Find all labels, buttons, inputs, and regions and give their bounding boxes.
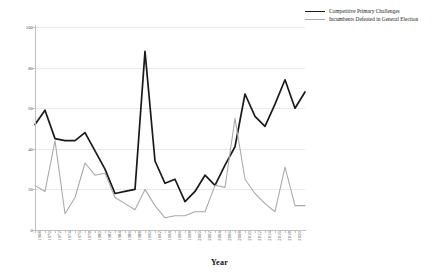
x-tick-label: 2002 [207,231,212,241]
x-tick-mark [45,231,46,233]
x-tick-mark [215,231,216,233]
x-tick-label: 1994 [167,231,172,241]
x-tick-mark [125,231,126,233]
x-tick-mark [155,231,156,233]
x-tick-mark [145,231,146,233]
y-tick-mark [32,108,35,109]
legend-item-primary: Competitive Primary Challenges [305,8,439,15]
series-lines [35,27,305,230]
x-tick-label: 2014 [267,231,272,241]
x-tick-label: 2016 [277,231,282,241]
legend-item-general: Incumbents Defeated in General Election [305,16,439,23]
y-tick-mark [32,27,35,28]
y-tick-mark [32,68,35,69]
x-axis-labels: 1968197019721974197619781980198219841986… [35,231,306,257]
x-tick-label: 2012 [257,231,262,241]
x-tick-label: 2004 [217,231,222,241]
x-tick-label: 1984 [117,231,122,241]
x-tick-label: 2006 [227,231,232,241]
x-tick-label: 2010 [247,231,252,241]
x-tick-mark [205,231,206,233]
x-tick-mark [115,231,116,233]
x-tick-label: 1976 [77,231,82,241]
x-tick-label: 1996 [177,231,182,241]
x-tick-label: 1978 [87,231,92,241]
plot-area [35,27,305,230]
x-tick-mark [295,231,296,233]
y-axis-line [35,25,36,231]
x-tick-label: 1968 [37,231,42,241]
x-tick-label: 2008 [237,231,242,241]
legend-label-primary: Competitive Primary Challenges [329,8,439,15]
x-tick-label: 2018 [287,231,292,241]
x-tick-mark [245,231,246,233]
y-axis-ticks: 020406080100 [0,0,33,277]
x-tick-label: 1980 [97,231,102,241]
x-tick-label: 1998 [187,231,192,241]
x-tick-mark [35,231,36,233]
x-tick-mark [235,231,236,233]
series-line-primary [35,51,305,201]
y-tick-mark [32,189,35,190]
x-tick-mark [175,231,176,233]
chart-legend: Competitive Primary Challenges Incumbent… [305,8,439,25]
x-tick-mark [255,231,256,233]
x-tick-mark [85,231,86,233]
x-tick-mark [135,231,136,233]
x-tick-label: 1986 [127,231,132,241]
x-tick-mark [275,231,276,233]
y-tick-mark [32,149,35,150]
x-tick-label: 1992 [157,231,162,241]
chart-figure: 020406080100 196819701972197419761978198… [0,0,439,277]
x-tick-mark [65,231,66,233]
x-tick-mark [75,231,76,233]
x-tick-label: 1972 [57,231,62,241]
x-tick-label: 2020 [297,231,302,241]
legend-swatch-primary-icon [305,11,325,12]
x-tick-mark [285,231,286,233]
x-tick-mark [185,231,186,233]
x-tick-mark [165,231,166,233]
x-axis-title: Year [0,258,439,267]
x-tick-mark [225,231,226,233]
x-tick-mark [265,231,266,233]
x-tick-label: 2000 [197,231,202,241]
x-tick-label: 1990 [147,231,152,241]
legend-swatch-general-icon [305,19,325,20]
x-tick-mark [195,231,196,233]
legend-label-general: Incumbents Defeated in General Election [329,16,439,23]
x-tick-label: 1988 [137,231,142,241]
x-tick-mark [55,231,56,233]
series-line-general [35,118,305,217]
x-tick-label: 1970 [47,231,52,241]
x-tick-label: 1982 [107,231,112,241]
x-tick-label: 1974 [67,231,72,241]
x-tick-mark [105,231,106,233]
x-tick-mark [95,231,96,233]
